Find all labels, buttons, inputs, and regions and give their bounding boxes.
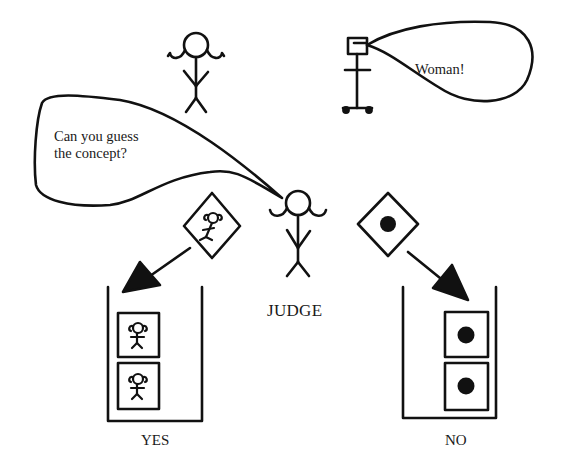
woman-figure-icon [129,374,146,399]
diagram-canvas [0,0,563,465]
arrow-to-no-icon [408,252,468,300]
black-dot-icon [458,327,475,344]
no-bin-item-1 [445,312,488,357]
judge-speech-line-1: Can you guess [54,128,139,145]
no-bin-item-2 [445,363,488,410]
yes-bin-label: YES [141,433,169,448]
black-dot-icon [458,378,475,395]
concept-learning-diagram: Woman! Can you guess the concept? JUDGE … [0,0,563,465]
arrow-to-yes-icon [123,248,190,292]
judge-stick-figure-icon [270,191,326,276]
judge-label: JUDGE [267,302,322,319]
woman-figure-icon [129,323,146,348]
no-bin [403,287,496,418]
woman-figure-icon [200,213,222,240]
negative-example-diamond [358,193,418,256]
positive-example-diamond [184,193,240,258]
yes-bin-item-1 [118,313,159,357]
black-dot-icon [380,216,396,232]
teacher-stick-figure-icon [168,33,224,112]
no-bin-label: NO [445,433,467,448]
robot-icon [343,38,372,113]
yes-bin [108,287,202,421]
robot-speech-text: Woman! [415,61,465,78]
yes-bin-item-2 [118,363,159,409]
judge-speech-line-2: the concept? [54,145,127,162]
